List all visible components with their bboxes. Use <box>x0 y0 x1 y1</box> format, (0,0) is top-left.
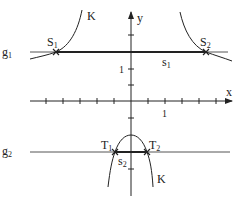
t2-point-label: T2 <box>149 138 160 153</box>
s2-point-label: S2 <box>200 35 211 50</box>
x-axis-label: x <box>226 85 232 99</box>
s1-point-label: S1 <box>47 35 58 50</box>
y-axis-label: y <box>137 11 143 25</box>
s1-label: s1 <box>162 55 171 70</box>
g2-label: g2 <box>2 144 12 159</box>
x-unit-label: 1 <box>162 108 167 119</box>
g1-label: g1 <box>2 45 12 60</box>
curve-k-label-upper: K <box>87 9 96 23</box>
coordinate-diagram: x 1 y 1 g1 s1 g2 s2 K K <box>0 0 244 203</box>
t1-point-label: T1 <box>101 138 112 153</box>
curve-k-label-lower: K <box>157 172 166 186</box>
s2-label: s2 <box>118 154 127 169</box>
y-unit-label: 1 <box>119 64 124 75</box>
